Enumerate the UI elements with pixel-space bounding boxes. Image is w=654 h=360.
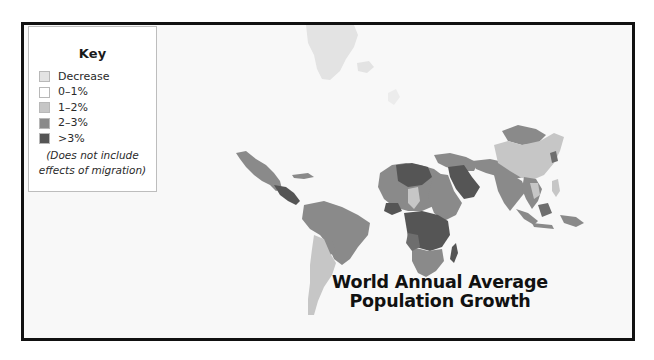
legend-item-1-2: 1–2% [39,100,110,116]
legend-swatch [39,118,50,129]
region-philippines [552,179,560,197]
region-india [494,175,526,211]
region-new-guinea [560,215,584,227]
legend-item-decrease: Decrease [39,69,110,85]
legend-swatch [39,71,50,82]
legend-swatch [39,133,50,144]
region-indonesia-java [532,223,554,229]
region-caribbean [292,173,314,179]
region-central-america [274,185,300,205]
map-title-line2: Population Growth [320,292,560,311]
legend-item-over-3: >3% [39,131,110,147]
legend-note-line1: (Does not include [29,148,156,163]
legend-swatch [39,102,50,113]
legend-note: (Does not include effects of migration) [29,148,156,178]
legend-swatch [39,87,50,98]
region-madagascar [450,243,458,263]
region-greenland [306,25,358,80]
map-title-line1: World Annual Average [320,273,560,292]
region-indonesia-borneo [538,203,552,217]
legend-label: 1–2% [58,102,88,114]
legend-label: Decrease [58,71,110,83]
legend-label: 2–3% [58,117,88,129]
region-mexico [236,151,282,191]
map-title: World Annual Average Population Growth [320,273,560,311]
region-angola [406,233,420,251]
legend-label: 0–1% [58,86,88,98]
legend: Key Decrease 0–1% 1–2% 2–3% >3% (Does no… [28,26,157,192]
region-europe-north [388,89,400,105]
region-indonesia-sumatra [516,209,538,225]
legend-item-0-1: 0–1% [39,85,110,101]
legend-note-line2: effects of migration) [29,163,156,178]
region-iceland [357,61,374,73]
legend-label: >3% [58,133,85,145]
legend-items: Decrease 0–1% 1–2% 2–3% >3% [39,69,110,147]
legend-item-2-3: 2–3% [39,116,110,132]
legend-title: Key [29,46,156,61]
